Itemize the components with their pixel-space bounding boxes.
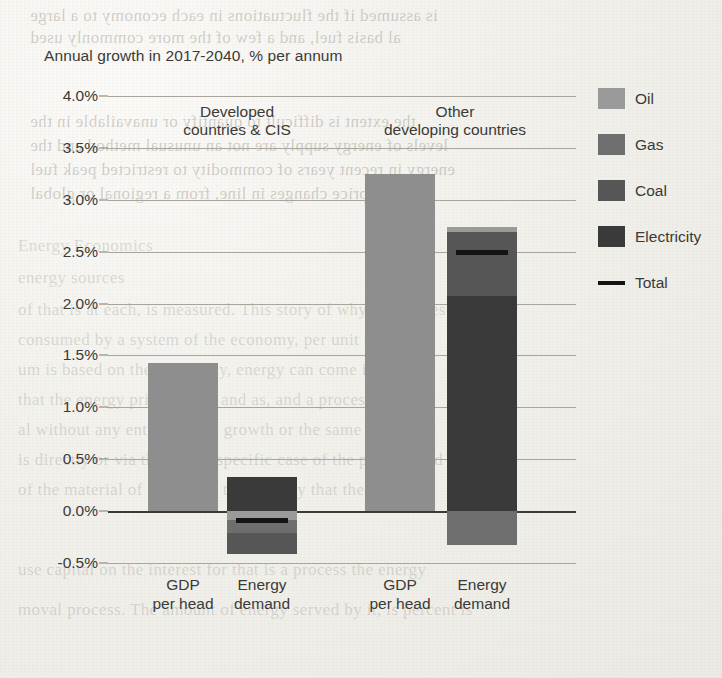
bar-segment (365, 174, 435, 511)
legend-label: Coal (635, 178, 667, 203)
legend-swatch (598, 134, 625, 155)
y-axis-tick-label: 0.0% (20, 502, 98, 520)
bar-segment-coal (227, 533, 297, 554)
group-label-line2: countries & CIS (122, 121, 352, 139)
legend-label: Total (635, 270, 668, 295)
y-axis-tick-mark (99, 147, 108, 148)
y-axis-tick-label: 3.0% (20, 191, 98, 209)
x-axis-label-line2: demand (207, 595, 317, 614)
bar-segment-coal (447, 232, 517, 296)
y-axis-tick-label: 2.0% (20, 295, 98, 313)
bar-segment-gas (447, 511, 517, 545)
legend-swatch (598, 180, 625, 201)
y-axis-tick-mark (99, 199, 108, 200)
bar-segment (148, 363, 218, 511)
bar-segment-electricity (447, 296, 517, 511)
y-axis-tick-label: 1.5% (20, 346, 98, 364)
y-axis-tick-label: 1.0% (20, 398, 98, 416)
y-axis-tick-label: 4.0% (20, 87, 98, 105)
legend-label: Electricity (635, 224, 701, 249)
x-axis-label: Energydemand (427, 576, 537, 613)
y-axis-tick-label: -0.5% (20, 554, 98, 572)
group-label-line1: Developed (122, 103, 352, 121)
bar (227, 96, 297, 563)
chart-root: Annual growth in 2017-2040, % per annum … (0, 0, 722, 678)
y-axis-tick-mark (99, 355, 108, 356)
y-axis-tick-mark (99, 459, 108, 460)
legend-line-marker (598, 281, 625, 285)
x-axis-label-line1: Energy (207, 576, 317, 595)
total-marker (236, 518, 288, 523)
plot-area (108, 96, 576, 563)
y-axis-tick-mark (99, 407, 108, 408)
group-label-line1: Other (340, 103, 570, 121)
bar (447, 96, 517, 563)
y-axis-tick-mark (99, 563, 108, 564)
bar-segment-oil (447, 227, 517, 232)
x-axis-label-line1: Energy (427, 576, 537, 595)
chart-title: Annual growth in 2017-2040, % per annum (44, 47, 343, 65)
y-axis-tick-label: 2.5% (20, 243, 98, 261)
group-label-line2: developing countries (340, 121, 570, 139)
legend-swatch (598, 226, 625, 247)
total-marker (456, 250, 508, 255)
y-axis-tick-label: 0.5% (20, 450, 98, 468)
y-axis-tick-mark (99, 96, 108, 97)
bar (148, 96, 218, 563)
bar (365, 96, 435, 563)
gridline (108, 563, 576, 564)
legend-swatch (598, 88, 625, 109)
y-axis-tick-mark (99, 303, 108, 304)
y-axis-tick-mark (99, 511, 108, 512)
legend-label: Oil (635, 86, 654, 111)
y-axis-tick-label: 3.5% (20, 139, 98, 157)
legend-label: Gas (635, 132, 663, 157)
bar-segment-electricity (227, 477, 297, 511)
x-axis-label: Energydemand (207, 576, 317, 613)
group-label: Developedcountries & CIS (122, 103, 352, 140)
group-label: Otherdeveloping countries (340, 103, 570, 140)
x-axis-label-line2: demand (427, 595, 537, 614)
y-axis-tick-mark (99, 251, 108, 252)
